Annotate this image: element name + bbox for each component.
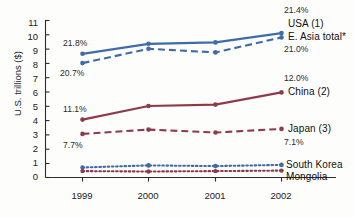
data-point <box>80 132 85 137</box>
data-point <box>213 102 218 107</box>
data-point <box>279 163 284 168</box>
series-label-japan: Japan (3) <box>288 123 331 134</box>
data-point <box>80 117 85 122</box>
data-point <box>213 130 218 135</box>
data-point <box>213 164 218 169</box>
data-point <box>80 169 84 173</box>
annotation-japan-1999: 7.7% <box>63 140 83 150</box>
series-china <box>80 90 284 122</box>
data-point <box>279 35 284 40</box>
data-point <box>146 127 151 132</box>
series-usa <box>80 31 284 56</box>
data-point <box>213 169 217 173</box>
series-label-usa: USA (1) <box>288 18 324 29</box>
series-south-korea <box>80 163 284 170</box>
data-point <box>279 168 283 172</box>
annotation-easia-2002: 21.0% <box>284 44 308 54</box>
data-point <box>279 90 284 95</box>
annotation-usa-2002: 21.4% <box>284 5 308 15</box>
annotation-easia-1999: 20.7% <box>60 68 84 78</box>
chart-container: U.S. trillions ($) 11 10 9 8 7 6 5 4 3 2… <box>0 0 354 217</box>
data-point <box>279 31 284 36</box>
series-label-mongolia: Mongolia <box>286 171 327 182</box>
annotation-japan-2002: 7.1% <box>284 137 304 147</box>
data-point <box>146 169 150 173</box>
data-point <box>146 163 151 168</box>
data-point <box>279 127 284 132</box>
data-point <box>80 52 85 57</box>
data-point <box>80 61 85 66</box>
series-label-east-asia: E. Asia total* <box>288 31 346 42</box>
data-point <box>146 104 151 109</box>
data-point <box>213 50 218 55</box>
data-point <box>146 47 151 52</box>
annotation-china-1999: 11.1% <box>63 104 87 114</box>
data-point <box>213 40 218 45</box>
annotation-usa-1999: 21.8% <box>63 38 87 48</box>
annotation-china-2002: 12.0% <box>284 73 308 83</box>
series-japan <box>80 127 284 137</box>
series-label-china: China (2) <box>288 86 330 97</box>
series-mongolia <box>80 168 283 173</box>
data-point <box>146 42 151 47</box>
y-axis-spine <box>46 20 50 178</box>
series-label-south-korea: South Korea <box>286 159 343 170</box>
